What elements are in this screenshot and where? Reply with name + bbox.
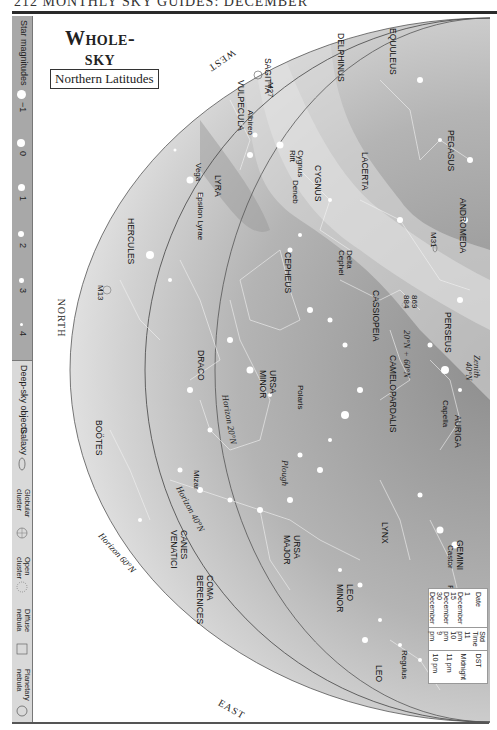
magnitude-dot-2 xyxy=(18,231,24,237)
label-m31: M31 xyxy=(429,232,438,248)
label-mizar: Mizar xyxy=(192,470,201,490)
magnitude-label: 0 xyxy=(18,151,28,156)
label-gemini: GEMINI xyxy=(455,540,465,570)
label-auriga: AURIGA xyxy=(453,415,463,448)
label-leo-minor-2: MINOR xyxy=(335,584,345,612)
label-leo: LEO xyxy=(374,665,384,682)
label-cassiopeia: CASSIOPEIA xyxy=(371,290,381,342)
label-draco: DRACO xyxy=(196,350,206,381)
magnitude-dot-3 xyxy=(19,278,24,283)
east-label: EAST xyxy=(216,697,247,721)
label-perseus: PERSEUS xyxy=(443,312,453,353)
label-coma-1: COMA xyxy=(205,575,215,601)
magnitude-label: −1 xyxy=(18,102,28,112)
label-pegasus: PEGASUS xyxy=(446,130,456,171)
table-row: 30 December 9 pm 10 pm xyxy=(429,589,444,684)
magnitude-dot-minus1 xyxy=(17,90,26,99)
deep-sky-label-galaxy: Galaxy xyxy=(19,427,29,455)
diffuse-nebula-icon xyxy=(16,643,28,655)
label-regulus: Regulus xyxy=(400,650,409,679)
label-leo-minor-1: LEO xyxy=(345,584,355,601)
magnitude-dot-0 xyxy=(17,139,25,147)
deep-sky-legend: Deep-sky objects Galaxy Globular cluster… xyxy=(12,360,33,723)
label-capella: Capella xyxy=(441,400,450,428)
label-ursa-minor-2: MINOR xyxy=(258,370,268,398)
header-date: Date xyxy=(471,589,488,628)
label-884: 884 xyxy=(402,295,411,309)
label-canes-1: CANES xyxy=(179,530,189,560)
title-line-1: Whole-sky xyxy=(50,28,150,68)
label-deneb: Deneb xyxy=(291,180,300,204)
table-row: 15 December 10 pm 11 pm xyxy=(443,589,457,684)
magnitude-dot-4 xyxy=(20,323,23,326)
time-table-grid: Date Std Time DST 1 December 11 pm Midni… xyxy=(428,588,488,684)
magnitude-label: 4 xyxy=(18,331,28,336)
header-std-time: Std Time xyxy=(471,628,488,650)
label-bootes: BOÖTES xyxy=(94,420,104,456)
planetary-nebula-icon xyxy=(16,705,28,717)
west-label: WEST xyxy=(206,47,238,74)
magnitude-label: 2 xyxy=(18,243,28,248)
label-lacerta: LACERTA xyxy=(360,152,370,191)
label-lynx: LYNX xyxy=(380,522,390,544)
page-bottom-rule xyxy=(12,722,489,724)
sky-chart: WEST NORTH EAST Horizon 20°N Horizon 40°… xyxy=(0,0,497,730)
label-delphinus: DELPHINUS xyxy=(336,33,346,82)
north-label: NORTH xyxy=(56,299,67,338)
label-equuleus: EQUULEUS xyxy=(388,28,398,75)
svg-text:Cephei: Cephei xyxy=(337,250,346,276)
magnitude-dot-1 xyxy=(18,184,25,191)
deep-sky-title: Deep-sky objects xyxy=(19,365,29,434)
label-castor: Castor xyxy=(446,545,455,569)
label-plough: Plough xyxy=(280,459,290,486)
magnitude-label: 3 xyxy=(18,288,28,293)
label-cygnus: CYGNUS xyxy=(313,165,323,202)
magnitudes-title: Star magnitudes xyxy=(19,20,29,86)
label-m27: M27 xyxy=(266,82,275,98)
deep-sky-label-planetary: Planetary nebula xyxy=(15,669,31,707)
label-coma-2: BERENICES xyxy=(195,575,205,624)
time-table: Date Std Time DST 1 December 11 pm Midni… xyxy=(436,588,488,718)
table-row: 1 December 11 pm Midnight xyxy=(457,589,471,684)
label-lyra: LYRA xyxy=(213,175,223,197)
label-camelopardalis: CAMELOPARDALIS xyxy=(388,355,398,433)
label-vega: Vega xyxy=(194,163,203,182)
globular-cluster-icon xyxy=(16,527,28,539)
label-ursa-minor-1: URSA xyxy=(268,370,278,394)
deep-sky-label-globular: Globular cluster xyxy=(15,489,31,529)
label-hercules: HERCULES xyxy=(126,218,136,265)
label-andromeda: ANDROMEDA xyxy=(458,198,468,254)
label-polaris: Polaris xyxy=(296,385,305,409)
magnitude-label: 1 xyxy=(18,196,28,201)
zenith-40-label: 40°N xyxy=(464,362,474,382)
open-cluster-icon xyxy=(16,581,28,593)
galaxy-icon xyxy=(17,457,27,471)
deep-sky-label-diffuse: Diffuse nebula xyxy=(15,609,31,645)
label-ursa-major-2: MAJOR xyxy=(282,535,292,565)
header-dst: DST xyxy=(471,650,488,683)
label-vulpecula: VULPECULA xyxy=(236,80,246,131)
label-epsilon-lyrae: Epsilon Lyrae xyxy=(196,192,205,241)
chart-subtitle: Northern Latitudes xyxy=(50,69,159,89)
label-ursa-major-1: URSA xyxy=(292,535,302,559)
zenith-20-60-label: 20°N + 60°N xyxy=(402,330,412,379)
label-albireo: Albireo xyxy=(246,110,255,135)
svg-text:Rift: Rift xyxy=(288,150,297,163)
label-m13: M13 xyxy=(96,285,105,301)
label-cepheus: CEPHEUS xyxy=(283,252,293,293)
label-canes-2: VENATICI xyxy=(169,530,179,569)
